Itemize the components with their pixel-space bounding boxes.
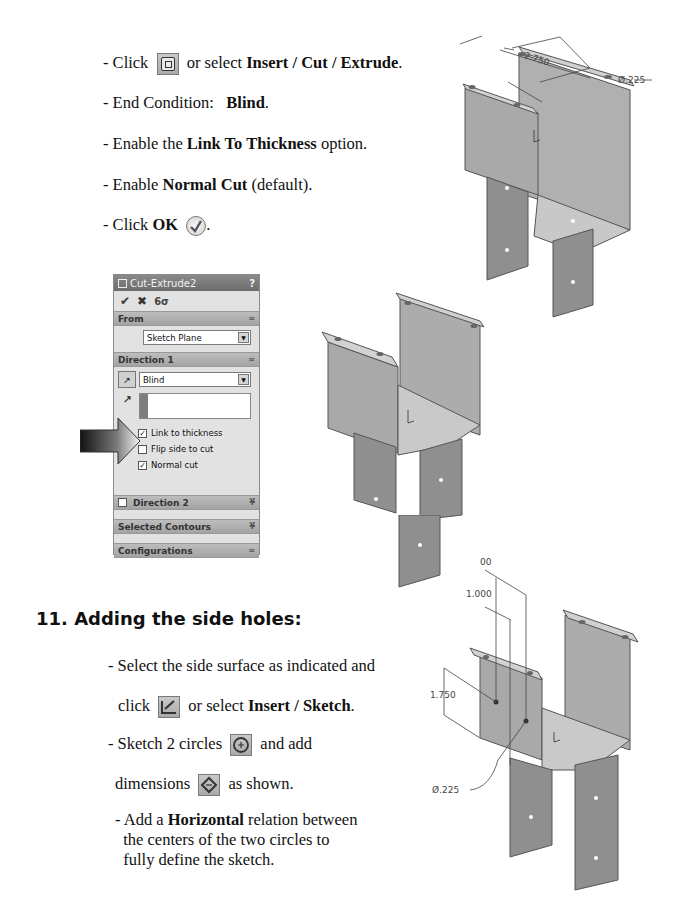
instruction-add-dimensions: dimensions as shown. (115, 774, 294, 796)
bracket-model-with-hole-dims (430, 0, 676, 320)
panel-title: Cut-Extrude2 (130, 278, 196, 289)
dim-vertical: 1.750 (430, 690, 456, 700)
detail-preview-button[interactable]: 6σ (154, 296, 169, 307)
cut-extrude-property-manager: Cut-Extrude2 ? ✔ ✖ 6σ From ≈ Sketch Plan… (113, 274, 260, 555)
cancel-button[interactable]: ✖ (137, 294, 147, 308)
link-to-thickness-checkbox[interactable]: ✓ Link to thickness (138, 425, 255, 441)
instruction-link-to-thickness: - Enable the Link To Thickness option. (103, 134, 367, 154)
dim-diameter-side: Ø.225 (432, 785, 459, 795)
reverse-direction-button[interactable]: ↗ (118, 371, 136, 388)
instruction-normal-cut: - Enable Normal Cut (default). (103, 175, 312, 195)
instruction-select-side-surface: - Select the side surface as indicated a… (108, 656, 375, 676)
instruction-click-ok: - Click OK . (103, 215, 210, 236)
dim-diameter-top: Ø.225 (618, 75, 645, 85)
from-select[interactable]: Sketch Plane ▼ (143, 330, 251, 345)
instruction-insert-sketch: click or select Insert / Sketch. (118, 696, 355, 718)
instruction-click-extrude-cut: - Click or select Insert / Cut / Extrude… (103, 53, 402, 75)
dim-top-partial: 00 (480, 557, 491, 567)
pointer-arrow-icon (80, 418, 142, 464)
ok-check-icon (186, 216, 206, 236)
bracket-model-side-holes (430, 550, 676, 923)
instruction-end-condition: - End Condition: Blind. (103, 93, 269, 113)
end-condition-select[interactable]: Blind ▼ (139, 372, 251, 387)
dropdown-arrow-icon[interactable]: ▼ (238, 332, 249, 343)
section-from-header[interactable]: From ≈ (114, 311, 259, 326)
section-heading-step11: 11. Adding the side holes: (36, 608, 302, 629)
feature-icon (118, 279, 127, 288)
instruction-sketch-circles: - Sketch 2 circles and add (108, 734, 312, 756)
instruction-horizontal-relation: - Add a Horizontal relation between the … (115, 810, 357, 870)
direction-arrow-icon: ↗ (118, 393, 136, 406)
extruded-cut-icon (157, 53, 179, 75)
direction2-checkbox[interactable] (118, 498, 127, 507)
collapse-icon[interactable]: ≈ (248, 355, 255, 364)
ok-button[interactable]: ✔ (120, 294, 130, 308)
dim-horizontal: 1.000 (466, 589, 492, 599)
collapse-icon[interactable]: ≈ (248, 546, 255, 555)
sketch-icon (158, 696, 180, 718)
circle-tool-icon (230, 734, 252, 756)
direction-selection-box[interactable] (139, 393, 251, 419)
expand-icon[interactable]: ¥ (249, 498, 255, 507)
panel-actions: ✔ ✖ 6σ (114, 291, 259, 311)
panel-title-bar: Cut-Extrude2 ? (114, 275, 259, 291)
dropdown-arrow-icon[interactable]: ▼ (238, 374, 249, 385)
expand-icon[interactable]: ¥ (249, 522, 255, 531)
smart-dimension-icon (198, 774, 220, 796)
flip-side-to-cut-checkbox[interactable]: Flip side to cut (138, 441, 255, 457)
collapse-icon[interactable]: ≈ (248, 314, 255, 323)
section-from-body: Sketch Plane ▼ (114, 326, 259, 352)
section-configurations-header[interactable]: Configurations ≈ (114, 543, 259, 558)
section-direction1-header[interactable]: Direction 1 ≈ (114, 352, 259, 367)
normal-cut-checkbox[interactable]: ✓ Normal cut (138, 457, 255, 473)
section-direction2-header[interactable]: Direction 2 ¥ (114, 495, 259, 510)
section-selected-contours-header[interactable]: Selected Contours ¥ (114, 519, 259, 534)
help-button[interactable]: ? (249, 278, 255, 289)
bracket-model-after-cut (290, 285, 490, 520)
